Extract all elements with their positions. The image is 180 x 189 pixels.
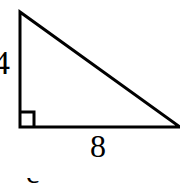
partial-caption-text: c = — [26, 178, 64, 188]
partial-caption: c = — [26, 178, 166, 189]
right-angle-marker-icon — [20, 112, 34, 127]
horizontal-leg-label: 8 — [90, 130, 106, 162]
geometry-figure: 4 8 c = — [0, 0, 180, 189]
triangle-outline — [20, 12, 180, 127]
vertical-leg-label: 4 — [0, 46, 10, 80]
